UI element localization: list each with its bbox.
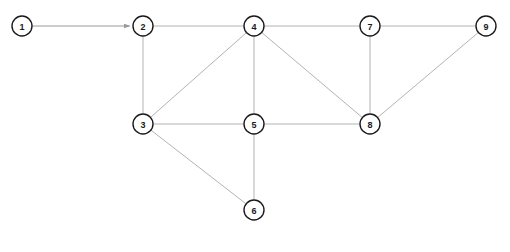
node-label-8: 8 [367, 120, 372, 130]
graph-node-2[interactable]: 2 [133, 16, 153, 36]
graph-node-9[interactable]: 9 [476, 16, 496, 36]
edge-3-4 [151, 33, 246, 117]
graph-node-4[interactable]: 4 [244, 16, 264, 36]
edge-8-9 [378, 33, 478, 117]
node-label-5: 5 [251, 120, 256, 130]
node-label-6: 6 [251, 206, 256, 216]
graph-node-3[interactable]: 3 [133, 114, 153, 134]
graph-node-7[interactable]: 7 [360, 16, 380, 36]
edge-3-6 [151, 130, 245, 203]
graph-node-8[interactable]: 8 [360, 114, 380, 134]
node-label-9: 9 [483, 22, 488, 32]
node-label-1: 1 [19, 22, 24, 32]
edge-4-8 [262, 33, 362, 117]
node-label-7: 7 [367, 22, 372, 32]
node-label-2: 2 [140, 22, 145, 32]
graph-node-6[interactable]: 6 [244, 200, 264, 220]
graph-node-5[interactable]: 5 [244, 114, 264, 134]
graph-node-1[interactable]: 1 [12, 16, 32, 36]
node-label-3: 3 [140, 120, 145, 130]
node-label-4: 4 [251, 22, 256, 32]
graph-diagram: 123456789 [0, 0, 510, 252]
